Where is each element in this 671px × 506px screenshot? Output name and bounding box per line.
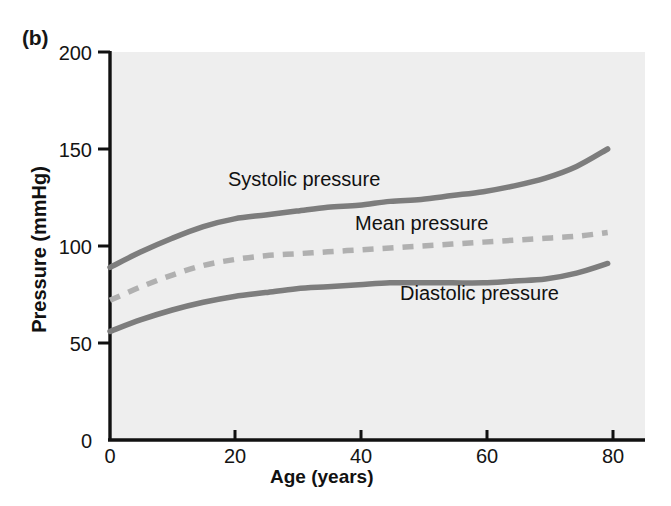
- x-tick-label-0: 0: [92, 445, 128, 468]
- annotation-diastolic-pressure: Diastolic pressure: [400, 282, 559, 305]
- annotation-mean-pressure: Mean pressure: [355, 212, 488, 235]
- y-tick-label-200: 200: [40, 42, 92, 65]
- figure-panel-b: (b) 200 150 100 50 0 0 20 40 60 80 Pres: [0, 0, 671, 506]
- x-tick-label-60: 60: [469, 445, 505, 468]
- plot-area-background: [109, 52, 645, 440]
- x-tick-label-40: 40: [343, 445, 379, 468]
- x-tick-label-80: 80: [595, 445, 631, 468]
- x-tick-label-20: 20: [217, 445, 253, 468]
- x-axis-title: Age (years): [270, 466, 374, 488]
- y-tick-label-0: 0: [40, 430, 92, 453]
- chart-canvas: [0, 0, 671, 506]
- annotation-systolic-pressure: Systolic pressure: [228, 168, 380, 191]
- y-axis-title: Pressure (mmHg): [28, 115, 51, 385]
